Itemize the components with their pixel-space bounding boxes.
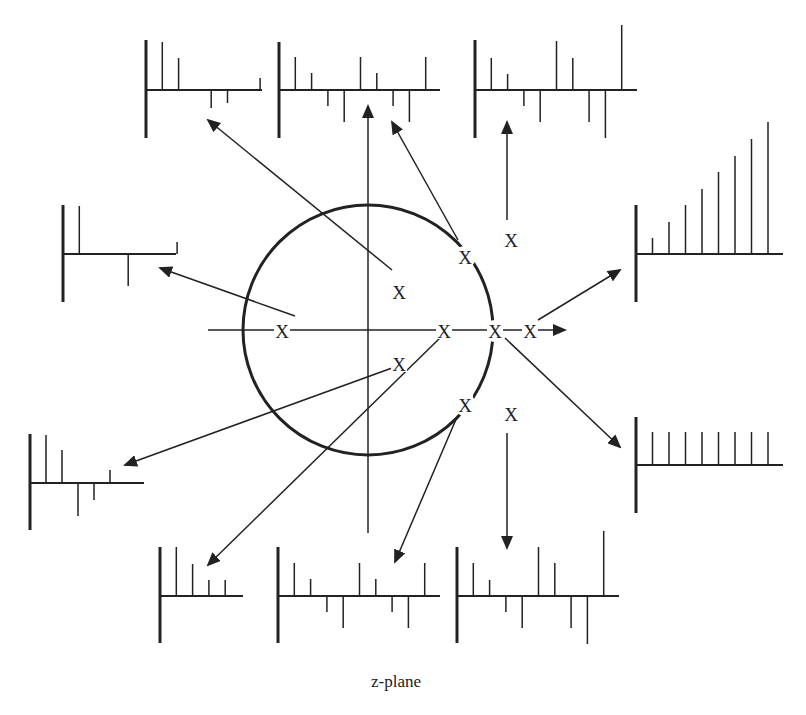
stem-plot-top-3 <box>475 25 637 138</box>
pole-marker-inside-upper: X <box>392 282 406 303</box>
impulse-response-stem-plots <box>30 25 783 644</box>
pole-to-response-arrows <box>125 120 620 565</box>
stem-plot-left-bottom <box>30 434 144 530</box>
stem-plot-bottom-3 <box>457 531 619 644</box>
stem-plot-bottom-1 <box>160 547 243 643</box>
stem-plot-top-1 <box>146 40 262 138</box>
stem-plot-bottom-2 <box>278 547 440 643</box>
stem-plot-right-top <box>636 122 783 302</box>
pole-marker-real-inside: X <box>437 321 451 342</box>
caption-text: z-plane <box>371 672 421 691</box>
stem-plot-right-bottom <box>636 417 783 513</box>
arrow-inside-lower <box>125 368 392 465</box>
arrow-left-real <box>160 268 295 316</box>
pole-marker-outside-real: X <box>523 321 537 342</box>
z-plane-caption: z-plane <box>0 672 806 692</box>
arrow-unit-upper <box>392 122 458 240</box>
complex-plane-axes <box>208 106 565 533</box>
pole-marker-outside-lower: X <box>504 404 518 425</box>
stem-plot-top-2 <box>279 42 440 138</box>
stem-plot-left-top <box>63 205 177 302</box>
pole-marker-inside-lower: X <box>392 354 406 375</box>
arrow-inside-upper <box>208 120 392 270</box>
z-plane-diagram: XXXXXXXXXX <box>0 0 806 715</box>
pole-marker-outside-upper: X <box>504 230 518 251</box>
pole-marker-unit-upper: X <box>458 247 472 268</box>
arrow-unit-lower <box>395 417 457 562</box>
arrow-unit-real <box>505 338 620 447</box>
pole-marker-unit-lower: X <box>458 395 472 416</box>
pole-marker-left-real: X <box>275 321 289 342</box>
pole-marker-unit-real: X <box>488 321 502 342</box>
arrow-outside-real <box>538 270 620 320</box>
